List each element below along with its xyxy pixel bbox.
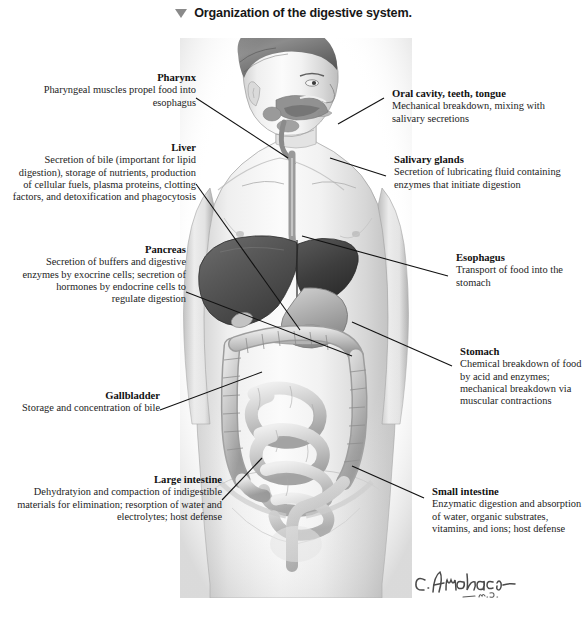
- figure-title-bar: Organization of the digestive system.: [0, 6, 587, 20]
- label-oral-cavity-body: Mechanical breakdown, mixing with saliva…: [392, 100, 578, 124]
- label-gallbladder-body: Storage and concentration of bile: [18, 402, 160, 414]
- label-large-intestine-body: Dehydratyion and compaction of indigesti…: [14, 486, 222, 522]
- figure-canvas: Organization of the digestive system.: [0, 0, 587, 620]
- label-large-intestine-heading: Large intestine: [14, 474, 222, 486]
- label-gallbladder-heading: Gallbladder: [18, 390, 160, 402]
- label-oral-cavity: Oral cavity, teeth, tongue Mechanical br…: [392, 88, 578, 125]
- label-liver: Liver Secretion of bile (important for l…: [12, 142, 196, 203]
- label-small-intestine-heading: Small intestine: [432, 486, 582, 498]
- label-salivary-glands-heading: Salivary glands: [394, 154, 574, 166]
- label-pancreas-heading: Pancreas: [22, 244, 186, 256]
- label-stomach: Stomach Chemical breakdown of food by ac…: [460, 346, 582, 407]
- label-stomach-body: Chemical breakdown of food by acid and e…: [460, 358, 582, 406]
- label-esophagus: Esophagus Transport of food into the sto…: [456, 252, 580, 289]
- label-oral-cavity-heading: Oral cavity, teeth, tongue: [392, 88, 578, 100]
- label-gallbladder: Gallbladder Storage and concentration of…: [18, 390, 160, 415]
- label-small-intestine-body: Enzymatic digestion and absorption of wa…: [432, 498, 582, 534]
- label-esophagus-heading: Esophagus: [456, 252, 580, 264]
- label-pharynx: Pharynx Pharyngeal muscles propel food i…: [18, 72, 196, 109]
- label-liver-body: Secretion of bile (important for lipid d…: [12, 154, 196, 202]
- label-liver-heading: Liver: [12, 142, 196, 154]
- page-title: Organization of the digestive system.: [194, 6, 412, 20]
- label-pharynx-heading: Pharynx: [18, 72, 196, 84]
- label-pancreas-body: Secretion of buffers and digestive enzym…: [22, 256, 186, 304]
- label-esophagus-body: Transport of food into the stomach: [456, 264, 580, 288]
- label-stomach-heading: Stomach: [460, 346, 582, 358]
- label-large-intestine: Large intestine Dehydratyion and compact…: [14, 474, 222, 523]
- label-pharynx-body: Pharyngeal muscles propel food into esop…: [18, 84, 196, 108]
- artist-signature: [413, 566, 533, 602]
- label-salivary-glands: Salivary glands Secretion of lubricating…: [394, 154, 574, 191]
- label-small-intestine: Small intestine Enzymatic digestion and …: [432, 486, 582, 535]
- label-pancreas: Pancreas Secretion of buffers and digest…: [22, 244, 186, 305]
- down-triangle-icon: [175, 9, 187, 18]
- label-salivary-glands-body: Secretion of lubricating fluid containin…: [394, 166, 574, 190]
